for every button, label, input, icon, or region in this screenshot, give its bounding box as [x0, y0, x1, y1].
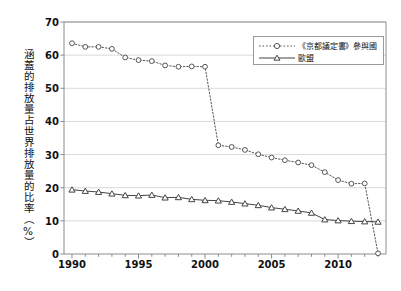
legend-swatch-dotted-circle-icon — [258, 40, 296, 52]
data-point — [229, 145, 234, 150]
data-point — [203, 64, 208, 69]
data-point — [216, 143, 221, 148]
series-eu — [69, 187, 381, 224]
data-point — [243, 148, 248, 153]
legend-label-kyoto: 《京都議定書》參與國 — [298, 40, 377, 51]
legend-swatch-solid-triangle-icon — [258, 52, 296, 64]
data-point — [149, 59, 154, 64]
data-point — [256, 152, 261, 157]
data-point — [96, 44, 101, 49]
chart-legend: 《京都議定書》參與國 歐盟 — [253, 36, 384, 65]
series-line — [72, 43, 378, 253]
data-point — [362, 181, 367, 186]
legend-item-eu: 歐盟 — [254, 51, 385, 64]
data-point — [163, 63, 168, 68]
legend-label-eu: 歐盟 — [298, 52, 314, 63]
data-point — [70, 41, 75, 46]
data-point — [83, 44, 88, 49]
data-point — [309, 163, 314, 168]
series-kyoto — [70, 41, 381, 256]
data-point — [336, 178, 341, 183]
data-point — [296, 160, 301, 165]
data-point — [269, 155, 274, 160]
data-point — [189, 64, 194, 69]
data-point — [349, 181, 354, 186]
data-point — [282, 158, 287, 163]
data-point — [123, 55, 128, 60]
series-line — [72, 190, 378, 222]
data-point — [322, 170, 327, 175]
data-point — [376, 251, 381, 256]
data-point — [110, 46, 115, 51]
data-point — [136, 58, 141, 63]
data-point — [176, 64, 181, 69]
chart-container: 涵蓋的排放量占世界排放量的比率（%） 010203040506070 19901… — [0, 0, 401, 291]
